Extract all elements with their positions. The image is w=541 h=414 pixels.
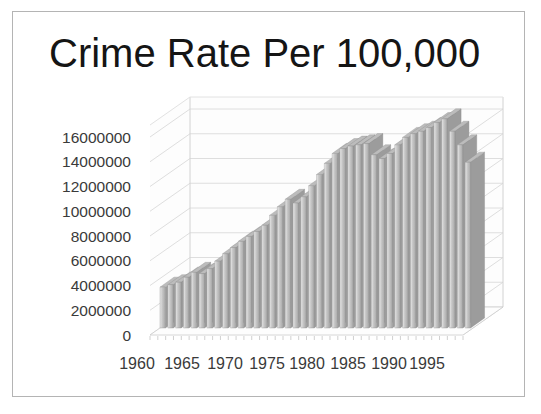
x-axis-label: 1985 [330, 355, 366, 372]
x-axis-label: 1960 [119, 355, 155, 372]
y-axis-label: 8000000 [71, 228, 132, 245]
y-axis-label: 0 [122, 327, 131, 344]
x-axis-label: 1975 [249, 355, 285, 372]
x-axis-label: 1995 [409, 355, 445, 372]
y-axis-label: 4000000 [71, 277, 132, 294]
y-axis-label: 12000000 [62, 178, 131, 195]
x-axis-label: 1990 [371, 355, 407, 372]
x-axis-label: 1965 [164, 355, 200, 372]
y-axis-label: 6000000 [71, 252, 132, 269]
y-axis-label: 14000000 [62, 153, 131, 170]
x-axis-label: 1970 [207, 355, 243, 372]
crime-3d-bar-chart: 0200000040000006000000800000010000000120… [0, 0, 541, 414]
bar-1999 [465, 152, 484, 328]
y-axis-label: 16000000 [62, 129, 131, 146]
slide: Crime Rate Per 100,000 02000000400000060… [0, 0, 541, 414]
x-axis-label: 1980 [289, 355, 325, 372]
y-axis-label: 2000000 [71, 302, 132, 319]
y-axis-label: 10000000 [62, 203, 131, 220]
